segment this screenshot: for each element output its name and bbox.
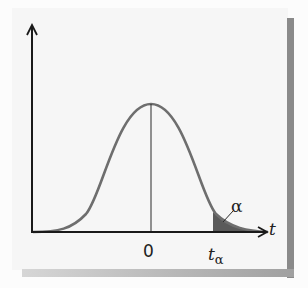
t-alpha-base: t	[208, 244, 215, 264]
t-alpha-subscript: α	[215, 252, 224, 267]
x-axis-label: t	[269, 219, 276, 239]
alpha-label: α	[231, 196, 242, 216]
t-alpha-label: tα	[208, 244, 224, 267]
t-distribution-chart	[0, 0, 308, 288]
figure-frame: t 0 α tα	[0, 0, 308, 288]
zero-tick-label: 0	[143, 241, 154, 261]
